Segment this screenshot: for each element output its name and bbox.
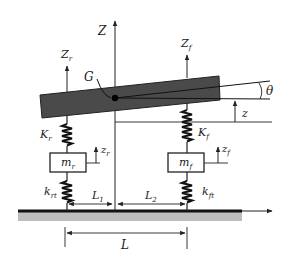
ground-fill bbox=[18, 212, 242, 221]
rear-tire-spring bbox=[62, 172, 72, 211]
Zr-label: Zr bbox=[60, 48, 73, 63]
L-label: L bbox=[120, 238, 129, 252]
theta-label: θ bbox=[266, 84, 274, 98]
Kf-label: Kf bbox=[197, 126, 210, 141]
G-label: G bbox=[84, 70, 94, 84]
L2-label: L2 bbox=[144, 189, 157, 204]
kft-label: kft bbox=[202, 185, 214, 200]
rear-suspension-spring bbox=[62, 115, 72, 153]
zr-label: zr bbox=[100, 144, 110, 158]
Kr-label: Kr bbox=[39, 128, 52, 143]
Z-axis-label: Z bbox=[97, 24, 107, 38]
front-tire-spring bbox=[182, 172, 192, 211]
diagram-svg: Z Zr Zf G θ z Kr Kf mr mf zr zf krt kft … bbox=[0, 0, 289, 263]
L1-label: L1 bbox=[91, 189, 104, 204]
center-of-gravity-point bbox=[112, 95, 118, 101]
z-label: z bbox=[241, 107, 248, 120]
krt-label: krt bbox=[44, 185, 57, 200]
zr-displacement-arrow bbox=[86, 147, 100, 163]
zf-label: zf bbox=[221, 143, 231, 157]
front-suspension-spring bbox=[182, 100, 192, 153]
theta-arc bbox=[259, 83, 262, 99]
Zf-label: Zf bbox=[180, 37, 193, 52]
half-car-suspension-diagram: Z Zr Zf G θ z Kr Kf mr mf zr zf krt kft … bbox=[0, 0, 289, 263]
